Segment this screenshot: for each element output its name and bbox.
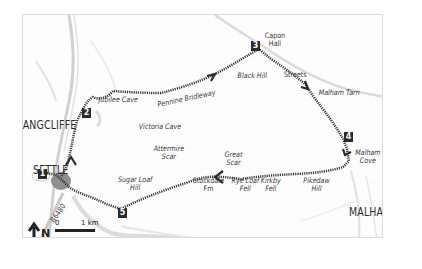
scale-end-label: 1 km	[81, 220, 99, 227]
label-streets: Streets	[284, 71, 307, 79]
label-kirkby-fell: Kirkby Fell	[261, 177, 281, 192]
walking-route-map: LANGCLIFFE SETTLE MALHAM Jubilee Cave Vi…	[22, 14, 383, 238]
scale-start-label: 0	[55, 220, 59, 227]
town-label-langcliffe: LANGCLIFFE	[22, 120, 76, 132]
label-jubilee-cave: Jubilee Cave	[98, 96, 137, 104]
label-capon-hall: Capon Hall	[265, 32, 285, 47]
waypoint-2: 2	[82, 108, 91, 118]
label-pikedaw-hill: Pikedaw Hill	[303, 177, 329, 192]
waypoint-1: 1	[38, 169, 47, 179]
north-label: N	[41, 228, 50, 238]
label-malham-cove: Malham Cove	[355, 149, 380, 164]
label-sugar-loaf-hill: Sugar Loaf Hill	[118, 176, 152, 191]
label-attermire-scar: Attermire Scar	[154, 145, 184, 160]
label-victoria-cave: Victoria Cave	[139, 123, 181, 131]
label-stockdale-fm: Stockdale Fm	[193, 177, 224, 192]
waypoint-5: 5	[118, 208, 127, 218]
scale-bar	[55, 229, 95, 232]
label-great-scar: Great Scar	[225, 151, 243, 166]
waypoint-4: 4	[344, 132, 353, 142]
label-rye-loaf-fell: Rye Loaf Fell	[231, 177, 259, 192]
waypoint-3: 3	[251, 41, 260, 51]
road-malham-tarn	[215, 15, 383, 97]
north-arrow-icon	[29, 224, 39, 238]
label-malham-tarn: Malham Tarn	[319, 89, 360, 97]
map-graphics	[23, 15, 383, 238]
label-black-hill: Black Hill	[238, 72, 267, 80]
town-label-malham: MALHAM	[349, 207, 383, 219]
